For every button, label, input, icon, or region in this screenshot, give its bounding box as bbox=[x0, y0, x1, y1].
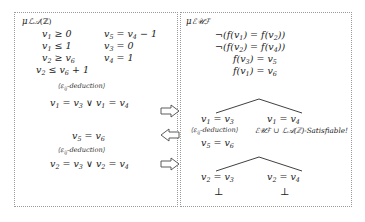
la-constraint-6: v3 = 0 bbox=[104, 40, 134, 51]
euf-tree1-branch-lines bbox=[204, 98, 314, 114]
euf-tree1-left-node: v1 = v3 bbox=[201, 113, 234, 124]
la-deduction-label-1: ⟨εij-deduction⟩ bbox=[58, 82, 105, 90]
la-constraint-2: v1 ≤ 1 bbox=[42, 40, 72, 51]
la-deduced-disjunction-2: v2 = v3 ∨ v2 = v4 bbox=[50, 158, 129, 169]
arrow-right-bottom-icon bbox=[160, 157, 180, 170]
euf-literal-3: f(v3) = v5 bbox=[233, 53, 277, 64]
la-constraint-1: v1 ≥ 0 bbox=[42, 28, 72, 39]
la-constraint-4: v2 ≤ v6 + 1 bbox=[36, 64, 89, 75]
euf-tree2-right-bottom-symbol: ⊥ bbox=[280, 186, 289, 197]
la-fact-v5-v6: v5 = v6 bbox=[72, 130, 105, 141]
euf-satisfiable-annotation: ℰ𝒰ℱ ∪ ℒ𝒜(ℤ)-Satisfiable! bbox=[255, 126, 348, 135]
euf-literal-1: ¬(f(v1) = f(v2)) bbox=[215, 29, 285, 40]
la-constraint-3: v2 ≥ v6 bbox=[42, 52, 75, 63]
la-deduction-label-2: ⟨εij-deduction⟩ bbox=[58, 146, 105, 154]
nelson-oppen-combination-figure: μℒ𝒜(ℤ) v1 ≥ 0 v1 ≤ 1 v2 ≥ v6 v2 ≤ v6 + 1… bbox=[0, 0, 365, 222]
euf-tree2-left-bottom-symbol: ⊥ bbox=[214, 186, 223, 197]
euf-literal-4: f(v1) = v6 bbox=[233, 65, 277, 76]
euf-tree2-branch-lines bbox=[204, 156, 314, 172]
la-constraint-7: v4 = 1 bbox=[104, 52, 134, 63]
la-deduced-disjunction-1: v1 = v3 ∨ v1 = v4 bbox=[50, 97, 129, 108]
euf-tree2-left-node: v2 = v3 bbox=[201, 171, 234, 182]
la-panel-label: μℒ𝒜(ℤ) bbox=[22, 16, 52, 27]
la-constraint-5: v5 = v4 − 1 bbox=[104, 28, 157, 39]
la-theory-panel bbox=[14, 12, 178, 207]
euf-tree2-right-node: v2 = v4 bbox=[267, 171, 300, 182]
euf-panel-label: μℰ𝒰ℱ bbox=[186, 16, 210, 27]
arrow-left-middle-icon bbox=[160, 128, 180, 141]
euf-tree1-deduction-label: ⟨εij-deduction⟩ bbox=[191, 126, 238, 134]
euf-literal-2: ¬(f(v2) = f(v4)) bbox=[215, 41, 285, 52]
euf-tree1-right-node: v1 = v4 bbox=[267, 113, 300, 124]
arrow-right-top-icon bbox=[160, 104, 180, 117]
euf-tree1-left-child: v5 = v6 bbox=[201, 137, 234, 148]
